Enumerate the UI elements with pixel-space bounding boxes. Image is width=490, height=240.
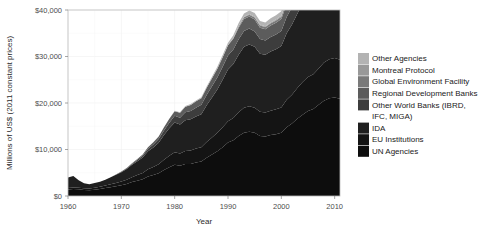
y-tick-label: $10,000 — [35, 145, 62, 154]
chart-canvas: $0$10,000$20,000$30,000$40,000 196019701… — [0, 0, 490, 240]
legend-label: Other World Banks (IBRD, — [372, 101, 466, 110]
legend-label: Montreal Protocol — [372, 66, 435, 75]
plot-panel — [68, 0, 340, 196]
legend-label: EU Institutions — [372, 135, 424, 144]
legend-swatch — [358, 76, 369, 87]
legend-swatch — [358, 53, 369, 64]
y-axis-title: Millions of US$ (2011 constant prices) — [5, 36, 14, 170]
legend-label: UN Agencies — [372, 147, 418, 156]
y-tick-label: $30,000 — [35, 52, 62, 61]
y-tick-label: $20,000 — [35, 99, 62, 108]
x-tick-label: 1990 — [220, 202, 237, 211]
legend-swatch — [358, 146, 369, 157]
x-tick-label: 1980 — [166, 202, 183, 211]
legend-swatch — [358, 65, 369, 76]
y-tick-label: $0 — [54, 192, 62, 201]
y-axis: $0$10,000$20,000$30,000$40,000 — [35, 6, 68, 201]
x-tick-label: 2010 — [326, 202, 343, 211]
legend-label-continued: IFC, MIGA) — [372, 112, 413, 121]
legend-label: Global Environment Facility — [372, 77, 469, 86]
x-axis-title: Year — [196, 217, 213, 226]
x-tick-label: 1960 — [60, 202, 77, 211]
x-tick-label: 1970 — [113, 202, 130, 211]
legend-swatch — [358, 99, 369, 110]
x-axis: 196019701980199020002010 — [60, 196, 343, 211]
legend-swatch — [358, 134, 369, 145]
y-tick-label: $40,000 — [35, 6, 62, 15]
legend: Other AgenciesMontreal ProtocolGlobal En… — [358, 53, 477, 157]
legend-label: Other Agencies — [372, 54, 427, 63]
x-tick-label: 2000 — [273, 202, 290, 211]
legend-label: IDA — [372, 124, 386, 133]
legend-swatch — [358, 123, 369, 134]
legend-swatch — [358, 88, 369, 99]
stacked-area-chart: $0$10,000$20,000$30,000$40,000 196019701… — [0, 0, 490, 240]
legend-label: Regional Development Banks — [372, 89, 477, 98]
